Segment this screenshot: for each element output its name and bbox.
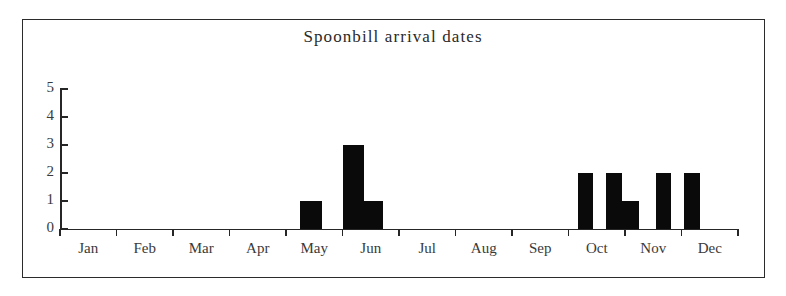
x-axis-label: Nov xyxy=(623,240,683,257)
x-axis-tick xyxy=(455,230,457,236)
x-axis-tick xyxy=(511,230,513,236)
x-axis-tick xyxy=(568,230,570,236)
y-axis-label: 5 xyxy=(28,79,54,96)
x-axis-tick xyxy=(398,230,400,236)
bar xyxy=(622,201,639,229)
x-axis-label: Jan xyxy=(58,240,118,257)
y-axis-label: 1 xyxy=(28,191,54,208)
x-axis-tick xyxy=(624,230,626,236)
x-axis-label: Mar xyxy=(171,240,231,257)
x-axis-label: Oct xyxy=(567,240,627,257)
y-axis-tick xyxy=(61,200,68,202)
bar xyxy=(364,201,383,229)
bar xyxy=(300,201,321,229)
bar xyxy=(343,145,364,229)
x-axis-label: May xyxy=(284,240,344,257)
y-axis-label: 0 xyxy=(28,219,54,236)
x-axis-label: Sep xyxy=(510,240,570,257)
bar xyxy=(656,173,671,229)
y-axis-tick xyxy=(61,144,68,146)
bars-layer xyxy=(60,89,738,229)
y-axis-tick xyxy=(61,88,68,90)
y-axis-tick xyxy=(61,228,68,230)
y-axis-label: 3 xyxy=(28,135,54,152)
y-axis-tick xyxy=(61,172,68,174)
bar xyxy=(606,173,621,229)
x-axis-tick xyxy=(116,230,118,236)
chart-screenshot: Spoonbill arrival dates 543210JanFebMarA… xyxy=(0,0,786,296)
bar xyxy=(578,173,593,229)
x-axis-label: Jun xyxy=(341,240,401,257)
y-axis-tick xyxy=(61,116,68,118)
x-axis-tick xyxy=(285,230,287,236)
x-axis-tick xyxy=(737,230,739,236)
y-axis-label: 2 xyxy=(28,163,54,180)
x-axis-tick xyxy=(681,230,683,236)
y-axis-label: 4 xyxy=(28,107,54,124)
bar xyxy=(684,173,699,229)
x-axis-tick xyxy=(342,230,344,236)
chart-title: Spoonbill arrival dates xyxy=(0,27,786,47)
x-axis-label: Feb xyxy=(115,240,175,257)
x-axis-tick xyxy=(59,230,61,236)
x-axis-tick xyxy=(172,230,174,236)
x-axis-label: Dec xyxy=(680,240,740,257)
x-axis-label: Aug xyxy=(454,240,514,257)
x-axis-tick xyxy=(229,230,231,236)
x-axis-label: Jul xyxy=(397,240,457,257)
x-axis-label: Apr xyxy=(228,240,288,257)
